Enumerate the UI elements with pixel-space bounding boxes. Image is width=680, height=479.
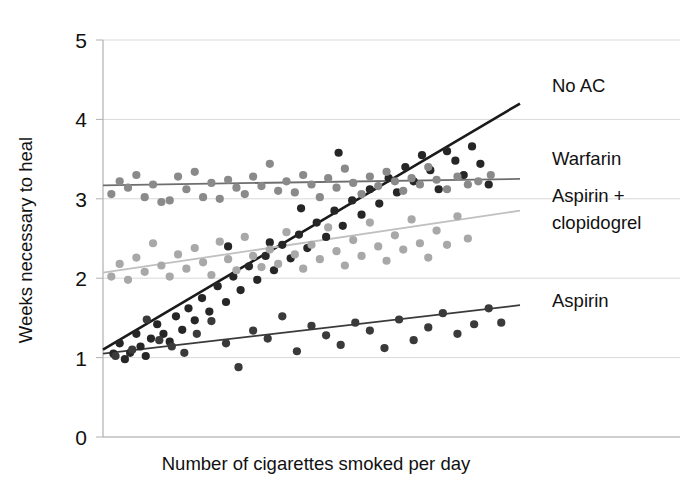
point-no-ac xyxy=(401,163,409,171)
point-warfarin xyxy=(433,176,441,184)
point-aspirin-clopidogrel xyxy=(149,239,157,247)
point-aspirin-clopidogrel xyxy=(157,261,165,269)
x-axis-title: Number of cigarettes smoked per day xyxy=(162,453,471,474)
point-aspirin-clopidogrel xyxy=(191,244,199,252)
point-aspirin-clopidogrel xyxy=(374,242,382,250)
point-aspirin-clopidogrel xyxy=(266,246,274,254)
point-no-ac xyxy=(142,352,150,360)
point-aspirin xyxy=(366,327,374,335)
point-aspirin-clopidogrel xyxy=(324,223,332,231)
point-warfarin xyxy=(224,176,232,184)
point-no-ac xyxy=(245,262,253,270)
point-warfarin xyxy=(366,172,374,180)
point-no-ac xyxy=(153,320,161,328)
point-warfarin xyxy=(207,179,215,187)
point-warfarin xyxy=(487,171,495,179)
point-aspirin-clopidogrel xyxy=(166,273,174,281)
point-warfarin xyxy=(291,188,299,196)
point-warfarin xyxy=(107,190,115,198)
point-aspirin-clopidogrel xyxy=(399,246,407,254)
aspirin-clopidogrel-label-2: clopidogrel xyxy=(552,212,641,233)
point-aspirin-clopidogrel xyxy=(174,250,182,258)
gridlines xyxy=(96,40,680,437)
chart-figure: 012345 No ACWarfarinAspirin +clopidogrel… xyxy=(0,0,680,479)
point-no-ac xyxy=(278,241,286,249)
point-warfarin xyxy=(453,172,461,180)
point-no-ac xyxy=(132,330,140,338)
point-no-ac xyxy=(178,326,186,334)
trend-lines xyxy=(103,104,520,354)
point-aspirin-clopidogrel xyxy=(116,260,124,268)
point-aspirin xyxy=(111,352,119,360)
point-warfarin xyxy=(157,198,165,206)
point-warfarin xyxy=(399,187,407,195)
point-aspirin xyxy=(395,315,403,323)
point-aspirin-clopidogrel xyxy=(249,252,257,260)
point-aspirin-clopidogrel xyxy=(307,241,315,249)
point-warfarin xyxy=(216,195,224,203)
point-no-ac xyxy=(172,312,180,320)
point-no-ac xyxy=(205,307,213,315)
point-warfarin xyxy=(307,180,315,188)
point-warfarin xyxy=(374,182,382,190)
point-warfarin xyxy=(299,171,307,179)
point-aspirin-clopidogrel xyxy=(332,247,340,255)
point-no-ac xyxy=(468,142,476,150)
warfarin-label: Warfarin xyxy=(552,148,621,169)
point-aspirin-clopidogrel xyxy=(124,276,132,284)
point-aspirin-clopidogrel xyxy=(224,255,232,263)
point-warfarin xyxy=(199,193,207,201)
point-warfarin xyxy=(382,168,390,176)
point-no-ac xyxy=(253,276,261,284)
point-no-ac xyxy=(121,355,129,363)
point-warfarin xyxy=(282,177,290,185)
series-labels: No ACWarfarinAspirin +clopidogrelAspirin xyxy=(552,75,641,311)
point-no-ac xyxy=(375,199,383,207)
point-aspirin xyxy=(128,346,136,354)
point-warfarin xyxy=(474,177,482,185)
point-aspirin xyxy=(155,336,163,344)
point-aspirin xyxy=(249,327,257,335)
point-no-ac xyxy=(435,185,443,193)
point-warfarin xyxy=(141,193,149,201)
point-no-ac xyxy=(357,211,365,219)
point-aspirin-clopidogrel xyxy=(182,265,190,273)
point-warfarin xyxy=(416,180,424,188)
point-no-ac xyxy=(222,298,230,306)
point-warfarin xyxy=(357,190,365,198)
point-warfarin xyxy=(166,196,174,204)
point-aspirin xyxy=(193,330,201,338)
y-axis-title: Weeks necessary to heal xyxy=(15,137,36,343)
point-warfarin xyxy=(391,177,399,185)
point-aspirin xyxy=(337,341,345,349)
point-aspirin-clopidogrel xyxy=(443,241,451,249)
point-no-ac xyxy=(297,204,305,212)
point-no-ac xyxy=(485,180,493,188)
point-warfarin xyxy=(324,174,332,182)
y-tick-label-3: 3 xyxy=(75,188,87,211)
point-aspirin xyxy=(264,334,272,342)
point-aspirin xyxy=(143,315,151,323)
point-aspirin-clopidogrel xyxy=(274,260,282,268)
point-aspirin xyxy=(168,342,176,350)
point-aspirin-clopidogrel xyxy=(341,261,349,269)
point-aspirin-clopidogrel xyxy=(416,239,424,247)
point-aspirin-clopidogrel xyxy=(357,252,365,260)
point-aspirin-clopidogrel xyxy=(241,233,249,241)
point-no-ac xyxy=(476,160,484,168)
point-warfarin xyxy=(316,193,324,201)
point-warfarin xyxy=(116,177,124,185)
point-aspirin-clopidogrel xyxy=(257,263,265,271)
point-no-ac xyxy=(451,157,459,165)
point-aspirin xyxy=(424,323,432,331)
point-aspirin-clopidogrel xyxy=(282,228,290,236)
point-aspirin xyxy=(278,312,286,320)
point-aspirin-clopidogrel xyxy=(316,255,324,263)
point-warfarin xyxy=(174,172,182,180)
point-aspirin xyxy=(234,363,242,371)
point-warfarin xyxy=(124,184,132,192)
point-no-ac xyxy=(339,222,347,230)
point-no-ac xyxy=(214,282,222,290)
scatter-plot: 012345 No ACWarfarinAspirin +clopidogrel… xyxy=(0,0,680,479)
point-aspirin-clopidogrel xyxy=(366,219,374,227)
